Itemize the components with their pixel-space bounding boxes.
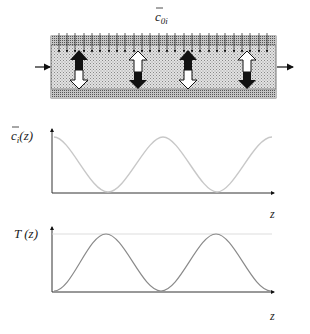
transmission-axis-label: T (z) [14,226,38,241]
feed-concentration-label: c0i [155,9,168,26]
x-axis-label: z [269,309,275,323]
transmission-curve [54,234,271,291]
concentration-chart: ci(z) z [11,127,275,221]
x-axis-label: z [269,207,275,221]
transmission-chart: T (z) z [14,226,275,323]
channel-diagram: c0i [35,8,293,98]
figure: c0i [0,0,310,334]
concentration-curve [54,137,272,192]
concentration-axis-label: ci(z) [11,128,33,145]
bottom-membrane-band [51,89,276,98]
